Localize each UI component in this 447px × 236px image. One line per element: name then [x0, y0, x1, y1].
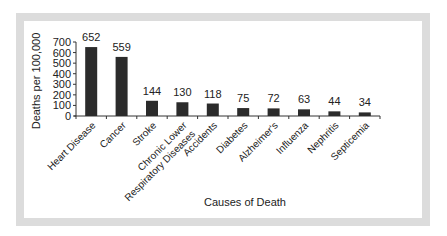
- bar: [176, 102, 188, 116]
- data-label: 72: [267, 92, 279, 104]
- data-label: 130: [173, 86, 191, 98]
- y-tick-label: 600: [53, 47, 71, 59]
- data-label: 118: [204, 88, 222, 100]
- y-tick-label: 500: [53, 57, 71, 69]
- y-axis-title: Deaths per 100,000: [30, 33, 42, 130]
- bar: [328, 111, 340, 116]
- bar: [298, 109, 310, 116]
- bar: [207, 104, 219, 116]
- category-label: Stroke: [130, 119, 159, 148]
- y-tick-label: 200: [53, 89, 71, 101]
- data-label: 144: [143, 85, 161, 97]
- y-tick-label: 0: [65, 110, 71, 122]
- category-label-line: Cancer: [97, 119, 128, 150]
- category-label-line: Influenza: [274, 119, 311, 156]
- data-label: 559: [112, 41, 130, 53]
- bar: [359, 112, 371, 116]
- bar: [116, 57, 128, 116]
- data-label: 44: [328, 95, 340, 107]
- y-tick-label: 700: [53, 36, 71, 48]
- x-axis-title: Causes of Death: [204, 196, 286, 208]
- data-label: 652: [82, 31, 100, 43]
- category-label: Cancer: [97, 119, 128, 150]
- y-tick-label: 300: [53, 78, 71, 90]
- y-tick-label: 100: [53, 99, 71, 111]
- data-label: 75: [237, 92, 249, 104]
- category-label: Chronic LowerRespiratory Diseases: [114, 119, 198, 203]
- category-label: Heart Disease: [45, 119, 98, 172]
- category-label-line: Heart Disease: [45, 119, 98, 172]
- data-label: 63: [298, 93, 310, 105]
- bar: [237, 108, 249, 116]
- category-label: Influenza: [274, 119, 311, 156]
- bar: [85, 47, 97, 116]
- bar: [146, 101, 158, 116]
- bar-chart: 0100200300400500600700652Heart Disease55…: [0, 0, 447, 236]
- bar: [268, 108, 280, 116]
- y-tick-label: 400: [53, 68, 71, 80]
- category-label-line: Stroke: [130, 119, 159, 148]
- data-label: 34: [359, 96, 371, 108]
